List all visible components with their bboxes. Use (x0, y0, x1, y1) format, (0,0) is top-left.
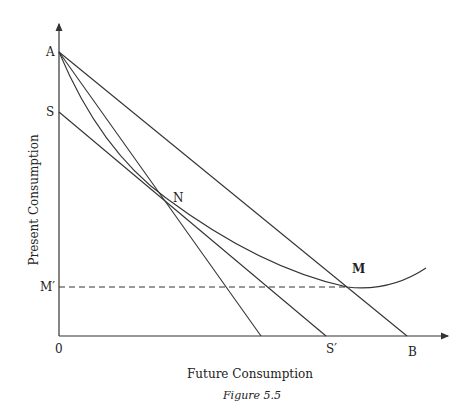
label-S: S (46, 106, 54, 118)
label-A: A (46, 46, 55, 58)
label-M-prime: M′ (40, 281, 55, 293)
budget-line-AB (59, 52, 407, 336)
label-M: M (352, 263, 365, 275)
label-S-prime: S′ (326, 343, 337, 355)
label-N: N (173, 192, 184, 204)
line-S-Sprime (59, 112, 326, 336)
label-origin: 0 (55, 343, 63, 355)
diagram-canvas (0, 0, 470, 414)
label-B: B (408, 346, 417, 358)
x-axis-label: Future Consumption (187, 367, 313, 381)
opportunity-curve (59, 52, 426, 288)
y-axis-label: Present Consumption (27, 134, 41, 265)
figure-caption: Figure 5.5 (223, 389, 281, 402)
